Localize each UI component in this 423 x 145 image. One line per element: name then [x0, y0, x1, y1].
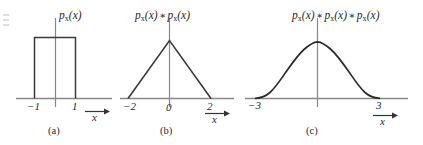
panel-b-x-axis-label: x [212, 114, 217, 125]
panel-c-conv-symbol-2: ∗ [347, 10, 357, 21]
panel-b: px(x)∗px(x) −2 0 2 x (b) [112, 0, 247, 145]
panel-c-x-axis-label: x [380, 116, 385, 127]
panel-a-x-arrow-head [104, 109, 110, 115]
panel-c-function-label: px(x)∗px(x)∗px(x) [292, 10, 379, 23]
panel-c-tick-neg3: −3 [248, 100, 261, 111]
panel-b-tick-2: 2 [207, 101, 213, 112]
panel-b-x-arrow-head [224, 111, 230, 117]
panel-a-tick-1: 1 [72, 101, 78, 112]
panel-a: px(x) −1 1 x (a) [0, 0, 130, 145]
figure-convolution-densities: px(x) −1 1 x (a) px(x)∗px(x) −2 0 2 x (b… [0, 0, 423, 145]
panel-c-tick-3: 3 [376, 100, 382, 111]
panel-c-x-arrow-head [392, 113, 398, 119]
panel-a-x-axis-label: x [92, 112, 97, 123]
panel-b-function-label: px(x)∗px(x) [135, 10, 190, 23]
panel-c-conv-symbol-1: ∗ [315, 10, 325, 21]
panel-c: px(x)∗px(x)∗px(x) −3 3 x (c) [240, 0, 423, 145]
panel-b-conv-symbol-1: ∗ [158, 10, 168, 21]
panel-a-function-label: px(x) [59, 10, 82, 23]
panel-b-tick-neg2: −2 [123, 101, 136, 112]
panel-a-tick-neg1: −1 [27, 101, 40, 112]
panel-c-caption: (c) [306, 126, 318, 137]
panel-b-tick-0: 0 [166, 102, 172, 113]
panel-a-caption: (a) [48, 126, 60, 137]
panel-b-caption: (b) [160, 126, 172, 137]
